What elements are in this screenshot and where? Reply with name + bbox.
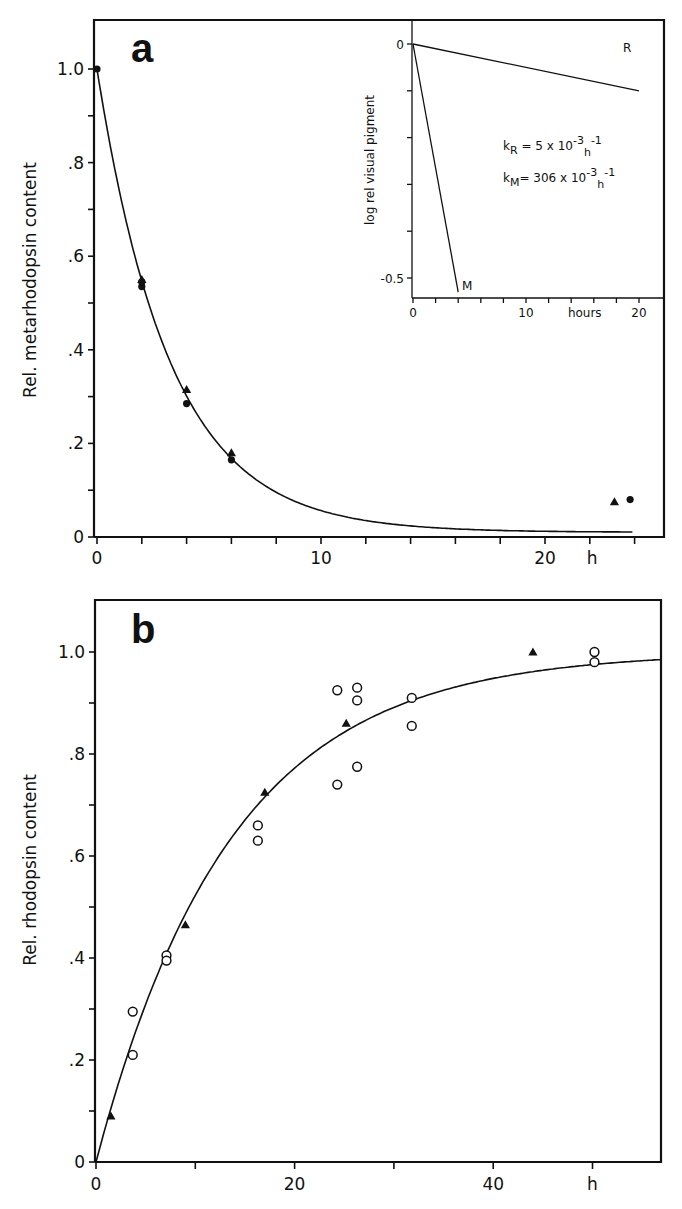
x-axis-label: h: [587, 548, 598, 568]
data-point-open-circle: [333, 780, 342, 789]
inset-chart: 0-0.501020hourslog rel visual pigmentRMk…: [363, 20, 664, 320]
data-point-filled-triangle: [137, 275, 146, 283]
y-tick-label: 1.0: [57, 59, 84, 79]
x-tick-label: 40: [482, 1174, 504, 1194]
data-point-filled-triangle: [528, 647, 537, 655]
data-point-filled-circle: [93, 65, 100, 72]
y-tick-label: 0: [73, 527, 84, 547]
data-point-open-circle: [590, 658, 599, 667]
data-point-filled-triangle: [106, 1112, 115, 1120]
y-tick-label: .2: [69, 1050, 85, 1070]
data-point-open-circle: [253, 836, 262, 845]
y-tick-label: .6: [69, 846, 85, 866]
x-axis-label: h: [587, 1174, 598, 1194]
data-point-open-circle: [407, 722, 416, 731]
y-tick-label: .8: [68, 153, 84, 173]
inset-line-M: [413, 44, 458, 292]
inset-line-label-M: M: [462, 279, 472, 293]
y-tick-label: .4: [69, 948, 85, 968]
data-point-filled-circle: [627, 496, 634, 503]
data-point-filled-circle: [183, 400, 190, 407]
data-point-filled-triangle: [610, 497, 619, 505]
x-tick-label: 20: [534, 548, 556, 568]
inset-x-tick-label: 0: [409, 306, 417, 320]
inset-x-tick-label: 20: [631, 306, 646, 320]
y-axis-label: Rel. metarhodopsin content: [20, 162, 40, 398]
inset-x-tick-label: 10: [518, 306, 533, 320]
y-tick-label: .6: [68, 246, 84, 266]
y-tick-label: .8: [69, 744, 85, 764]
data-point-open-circle: [128, 1051, 137, 1060]
panel-a-frame: [94, 20, 664, 537]
inset-line-R: [413, 44, 639, 91]
panel-label-b: b: [131, 607, 155, 651]
x-tick-label: 10: [310, 548, 332, 568]
inset-y-tick-label: -0.5: [381, 272, 404, 286]
inset-line-label-R: R: [623, 41, 631, 55]
panel-label-a: a: [131, 26, 154, 70]
data-point-open-circle: [128, 1007, 137, 1016]
data-point-open-circle: [353, 762, 362, 771]
x-tick-label: 0: [91, 1174, 102, 1194]
y-tick-label: .2: [68, 433, 84, 453]
y-tick-label: 0: [74, 1152, 85, 1172]
data-point-filled-triangle: [227, 448, 236, 456]
panel-b-frame: [95, 600, 661, 1162]
data-point-filled-triangle: [342, 719, 351, 727]
data-point-open-circle: [162, 956, 171, 965]
inset-y-axis-label: log rel visual pigment: [363, 95, 377, 225]
fit-curve-recovery: [96, 660, 662, 1163]
rate-constant-kR: kR = 5 x 10-3h-1: [503, 134, 602, 159]
x-tick-label: 20: [284, 1174, 306, 1194]
data-point-open-circle: [253, 821, 262, 830]
data-point-open-circle: [333, 686, 342, 695]
figure: 0.2.4.6.81.001020hRel. metarhodopsin con…: [0, 0, 682, 1209]
inset-x-axis-label: hours: [568, 306, 602, 320]
data-point-open-circle: [407, 694, 416, 703]
data-point-open-circle: [590, 648, 599, 657]
panel-b-chart: 0.2.4.6.81.002040hRel. rhodopsin content…: [20, 600, 662, 1194]
data-point-filled-triangle: [260, 788, 269, 796]
y-tick-label: .4: [68, 340, 84, 360]
data-point-filled-circle: [228, 456, 235, 463]
inset-y-tick-label: 0: [396, 38, 404, 52]
panel-a-chart: 0.2.4.6.81.001020hRel. metarhodopsin con…: [20, 20, 664, 568]
data-point-open-circle: [353, 696, 362, 705]
data-point-open-circle: [353, 683, 362, 692]
x-tick-label: 0: [92, 548, 103, 568]
y-axis-label: Rel. rhodopsin content: [20, 774, 40, 966]
rate-constant-kM: kM= 306 x 10-3h-1: [503, 166, 615, 191]
y-tick-label: 1.0: [58, 642, 85, 662]
